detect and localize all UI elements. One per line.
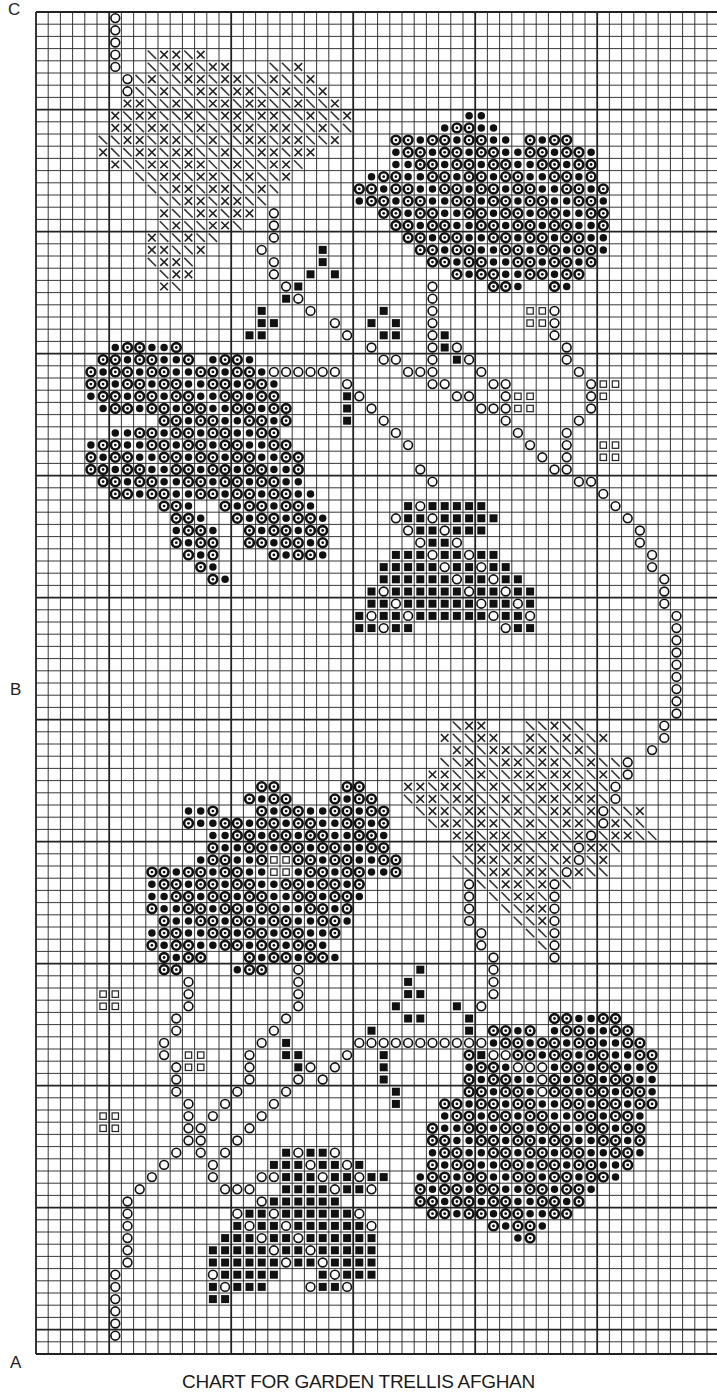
label-c: C [8,0,20,20]
label-a: A [10,1353,21,1373]
label-b: B [10,680,21,700]
knitting-chart-grid [0,0,717,1400]
chart-caption: CHART FOR GARDEN TRELLIS AFGHAN [0,1371,717,1393]
